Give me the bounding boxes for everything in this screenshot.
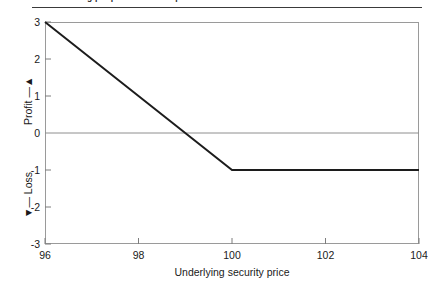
payoff-line	[45, 22, 419, 170]
y-axis-title-loss: ▼— Loss	[22, 172, 34, 218]
ytick-label-3: 3	[14, 17, 40, 28]
payoff-chart-figure: Exhibit 3. Long put profit/loss at expir…	[0, 0, 440, 287]
xtick-label-102: 102	[306, 250, 346, 261]
xtick-label-100: 100	[212, 250, 252, 261]
ytick-label-2: 2	[14, 54, 40, 65]
y-axis-title-profit: Profit —▲	[22, 77, 34, 125]
y-axis-profit-text: Profit	[22, 100, 34, 125]
xtick-label-104: 104	[399, 250, 439, 261]
loss-arrow-icon: ▼—	[22, 194, 34, 218]
ytick-label-neg3: -3	[14, 239, 40, 250]
plot-canvas	[0, 0, 440, 287]
x-axis-title: Underlying security price	[45, 266, 419, 278]
profit-arrow-icon: —▲	[22, 77, 34, 101]
ytick-label-0: 0	[14, 128, 40, 139]
x-axis-ticks	[45, 238, 419, 244]
xtick-label-98: 98	[119, 250, 159, 261]
xtick-label-96: 96	[25, 250, 65, 261]
y-axis-loss-text: Loss	[22, 172, 34, 194]
